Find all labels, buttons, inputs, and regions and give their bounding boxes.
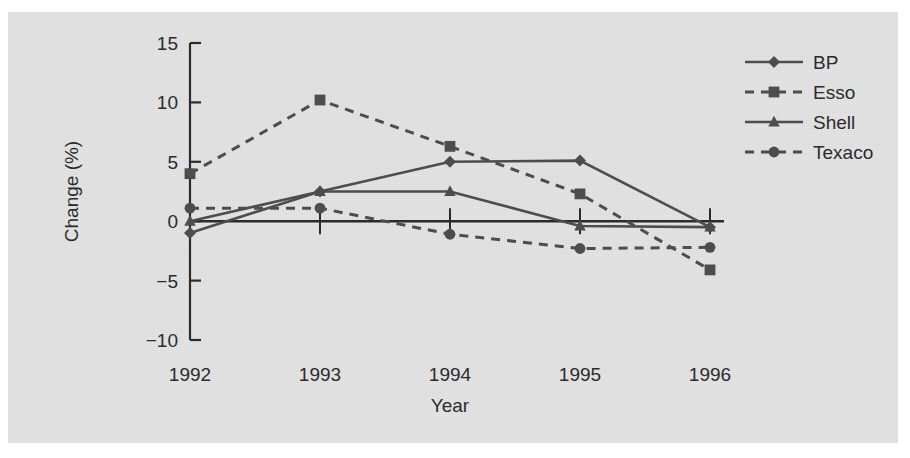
x-axis-tick-label: 1992 (169, 364, 211, 385)
x-axis-tick-label: 1996 (689, 364, 731, 385)
y-axis-tick-label: 15 (157, 33, 178, 54)
x-axis-tick-label: 1993 (299, 364, 341, 385)
chart-legend: BPEssoShellTexaco (745, 52, 873, 163)
x-axis-tick-label: 1994 (429, 364, 472, 385)
legend-label-texaco: Texaco (813, 142, 873, 163)
y-axis-tick-label: 10 (157, 92, 178, 113)
data-point-diamond (184, 227, 196, 239)
x-axis-tick-label: 1995 (559, 364, 601, 385)
data-point-square (445, 141, 456, 152)
series-line-esso (190, 100, 710, 270)
data-point-square (315, 95, 326, 106)
legend-item-bp[interactable]: BP (745, 52, 838, 73)
data-point-diamond (768, 56, 780, 68)
y-axis-title: Change (%) (61, 141, 82, 242)
legend-label-shell: Shell (813, 112, 855, 133)
data-point-square (575, 188, 586, 199)
y-axis-tick-label: −10 (146, 330, 178, 351)
legend-label-bp: BP (813, 52, 838, 73)
data-point-square (769, 87, 780, 98)
data-point-square (705, 265, 716, 276)
data-point-circle (705, 242, 716, 253)
data-point-circle (445, 229, 456, 240)
legend-item-shell[interactable]: Shell (745, 112, 855, 133)
data-point-diamond (574, 155, 586, 167)
data-point-circle (315, 203, 326, 214)
x-axis-title: Year (431, 395, 470, 416)
line-chart: 151050−5−10Change (%)1992199319941995199… (0, 0, 910, 458)
y-axis-tick-label: −5 (156, 271, 178, 292)
data-point-circle (769, 147, 780, 158)
figure-root: 151050−5−10Change (%)1992199319941995199… (0, 0, 910, 458)
legend-item-esso[interactable]: Esso (745, 82, 855, 103)
y-axis-tick-label: 0 (167, 211, 178, 232)
data-point-circle (185, 203, 196, 214)
legend-label-esso: Esso (813, 82, 855, 103)
legend-item-texaco[interactable]: Texaco (745, 142, 873, 163)
data-point-square (185, 168, 196, 179)
y-axis-tick-label: 5 (167, 152, 178, 173)
data-point-diamond (444, 156, 456, 168)
data-point-circle (575, 243, 586, 254)
